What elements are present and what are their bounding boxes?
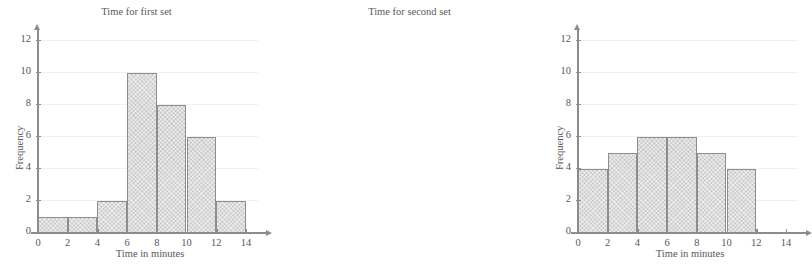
- y-axis-tick: [36, 200, 41, 201]
- x-axis-tick: [786, 229, 787, 234]
- x-axis-title: Time in minutes: [600, 248, 780, 259]
- x-axis-tick-label: 8: [687, 237, 707, 248]
- y-axis-line: [577, 30, 579, 234]
- y-axis-tick-label: 12: [9, 33, 31, 44]
- y-axis-tick: [576, 136, 581, 137]
- y-axis-tick: [576, 72, 581, 73]
- x-axis-tick: [608, 229, 609, 234]
- x-axis-tick-label: 6: [657, 237, 677, 248]
- y-axis-tick-label: 0: [549, 225, 571, 236]
- y-axis-tick: [36, 104, 41, 105]
- x-axis-tick-label: 14: [776, 237, 796, 248]
- y-axis-tick-label: 4: [9, 161, 31, 172]
- plot-area-second-set: [578, 41, 798, 233]
- gridline: [578, 104, 798, 105]
- x-axis-tick-label: 6: [117, 237, 137, 248]
- x-axis-tick-label: 10: [177, 237, 197, 248]
- y-axis-tick: [576, 200, 581, 201]
- y-axis-arrow-icon: [34, 24, 40, 30]
- histogram-bar: [697, 153, 727, 233]
- histogram-bar: [608, 153, 638, 233]
- x-axis-tick-label: 12: [746, 237, 766, 248]
- x-axis-tick-label: 8: [147, 237, 167, 248]
- x-axis-tick: [216, 229, 217, 234]
- x-axis-tick-label: 14: [236, 237, 256, 248]
- y-axis-tick-label: 6: [9, 129, 31, 140]
- histogram-bar: [68, 217, 98, 233]
- y-axis-tick: [36, 168, 41, 169]
- x-axis-tick: [697, 229, 698, 234]
- x-axis-tick: [727, 229, 728, 234]
- y-axis-line: [37, 30, 39, 234]
- histogram-bar: [38, 217, 68, 233]
- x-axis-tick-label: 2: [598, 237, 618, 248]
- y-axis-arrow-icon: [574, 24, 580, 30]
- histogram-bar: [216, 201, 246, 233]
- x-axis-tick: [68, 229, 69, 234]
- x-axis-tick-label: 0: [568, 237, 588, 248]
- x-axis-title: Time in minutes: [60, 248, 240, 259]
- x-axis-line: [571, 232, 807, 234]
- x-axis-tick-label: 10: [717, 237, 737, 248]
- y-axis-tick-label: 10: [9, 65, 31, 76]
- histogram-bar: [578, 169, 608, 233]
- histogram-bar: [727, 169, 757, 233]
- histogram-bar: [187, 137, 217, 233]
- x-axis-tick-label: 4: [87, 237, 107, 248]
- y-axis-tick-label: 0: [9, 225, 31, 236]
- x-axis-tick-label: 2: [58, 237, 78, 248]
- x-axis-tick: [187, 229, 188, 234]
- x-axis-tick: [246, 229, 247, 234]
- y-axis-tick: [576, 168, 581, 169]
- histogram-bar: [637, 137, 667, 233]
- y-axis-tick: [576, 104, 581, 105]
- y-axis-tick-label: 8: [549, 97, 571, 108]
- plot-area-first-set: [38, 41, 258, 233]
- histogram-first-set: Time for first set Time in minutes Frequ…: [0, 0, 273, 268]
- y-axis-tick-label: 2: [9, 193, 31, 204]
- y-axis-tick: [36, 40, 41, 41]
- x-axis-tick-label: 0: [28, 237, 48, 248]
- gridline: [578, 40, 798, 41]
- x-axis-arrow-icon: [266, 230, 272, 236]
- gridline: [578, 72, 798, 73]
- x-axis-tick: [667, 229, 668, 234]
- x-axis-line: [31, 232, 267, 234]
- y-axis-tick-label: 12: [549, 33, 571, 44]
- histogram-bar: [97, 201, 127, 233]
- x-axis-tick: [756, 229, 757, 234]
- x-axis-tick: [97, 229, 98, 234]
- x-axis-tick: [127, 229, 128, 234]
- x-axis-tick-label: 12: [206, 237, 226, 248]
- y-axis-tick: [36, 72, 41, 73]
- y-axis-tick-label: 8: [9, 97, 31, 108]
- x-axis-tick: [157, 229, 158, 234]
- x-axis-tick-label: 4: [627, 237, 647, 248]
- chart-title: Time for first set: [0, 6, 273, 17]
- y-axis-tick-label: 2: [549, 193, 571, 204]
- y-axis-tick: [36, 136, 41, 137]
- chart-title: Time for second set: [273, 6, 546, 17]
- y-axis-tick: [576, 40, 581, 41]
- gridline: [38, 40, 258, 41]
- histogram-bar: [667, 137, 697, 233]
- x-axis-tick: [637, 229, 638, 234]
- histogram-bar: [127, 73, 157, 233]
- y-axis-tick-label: 10: [549, 65, 571, 76]
- y-axis-tick-label: 4: [549, 161, 571, 172]
- histogram-second-set: Time for second set Time in minutes Freq…: [273, 0, 546, 268]
- y-axis-tick-label: 6: [549, 129, 571, 140]
- histogram-bar: [157, 105, 187, 233]
- x-axis-arrow-icon: [806, 230, 812, 236]
